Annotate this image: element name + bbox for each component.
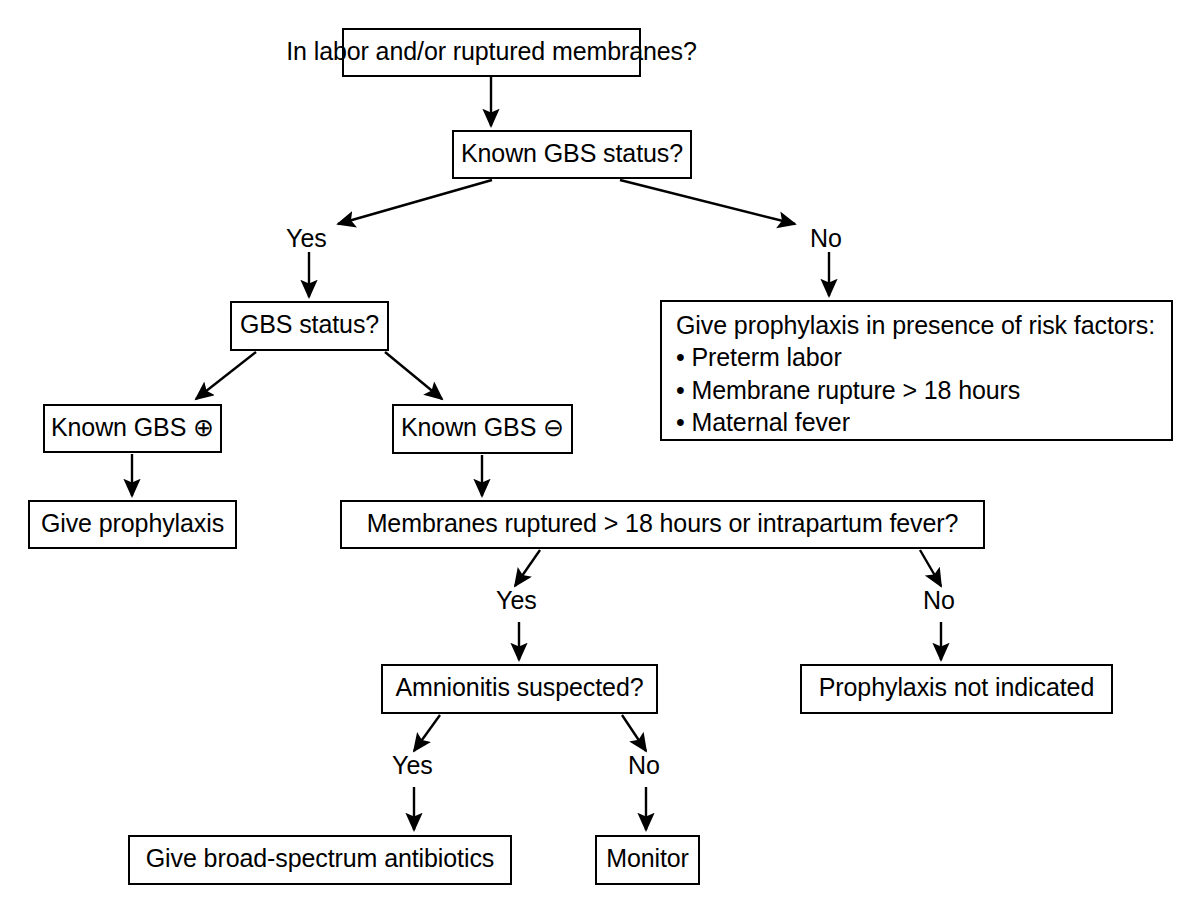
flowchart-canvas: In labor and/or ruptured membranes? Know… [0,0,1192,919]
node-label: Give prophylaxis [41,511,224,536]
node-label: GBS status? [240,312,379,337]
edge-label-membranes-no: No [923,588,955,613]
node-risk-factors-box[interactable]: Give prophylaxis in presence of risk fac… [660,300,1173,441]
edge-label-gbs-status-yes: Yes [286,226,327,251]
edge-label-amnionitis-yes: Yes [392,753,433,778]
node-give-prophylaxis[interactable]: Give prophylaxis [28,500,237,549]
node-label: Monitor [606,846,689,871]
connector-n3-n5 [385,352,442,399]
node-amnionitis-suspected[interactable]: Amnionitis suspected? [381,664,658,714]
node-label: Membranes ruptured > 18 hours or intrapa… [367,511,959,536]
node-known-gbs-status[interactable]: Known GBS status? [452,130,692,179]
node-label: Give broad-spectrum antibiotics [146,846,494,871]
connector-n3-n4 [196,352,256,399]
node-label: Prophylaxis not indicated [819,675,1094,700]
node-known-gbs-negative[interactable]: Known GBS ⊖ [392,404,573,454]
connector-n8-yes [414,715,440,751]
connector-n8-no [622,715,646,751]
node-label: Known GBS ⊕ [51,415,214,440]
connector-n2-yes [338,180,492,224]
node-label: Known GBS status? [461,141,683,166]
connector-n7-no [920,550,941,586]
edge-label-gbs-status-no: No [810,226,842,251]
connector-n2-no [620,180,795,224]
risk-factor-item: • Preterm labor [676,341,1159,373]
node-label: In labor and/or ruptured membranes? [286,39,697,64]
risk-factor-item: • Membrane rupture > 18 hours [676,374,1159,406]
connector-n7-yes [515,550,540,586]
node-give-broad-spectrum-antibiotics[interactable]: Give broad-spectrum antibiotics [128,835,512,885]
risk-factor-item: • Maternal fever [676,406,1159,438]
node-monitor[interactable]: Monitor [595,835,700,885]
node-membranes-ruptured-or-fever[interactable]: Membranes ruptured > 18 hours or intrapa… [340,500,985,549]
node-label: Known GBS ⊖ [401,415,564,440]
node-label: Amnionitis suspected? [395,675,643,700]
node-gbs-status[interactable]: GBS status? [230,301,389,351]
node-in-labor-or-ruptured-membranes[interactable]: In labor and/or ruptured membranes? [342,28,641,77]
node-known-gbs-positive[interactable]: Known GBS ⊕ [43,404,222,453]
risk-factors-heading: Give prophylaxis in presence of risk fac… [676,309,1159,341]
edge-label-amnionitis-no: No [628,753,660,778]
node-prophylaxis-not-indicated[interactable]: Prophylaxis not indicated [800,664,1113,714]
edge-label-membranes-yes: Yes [496,588,537,613]
